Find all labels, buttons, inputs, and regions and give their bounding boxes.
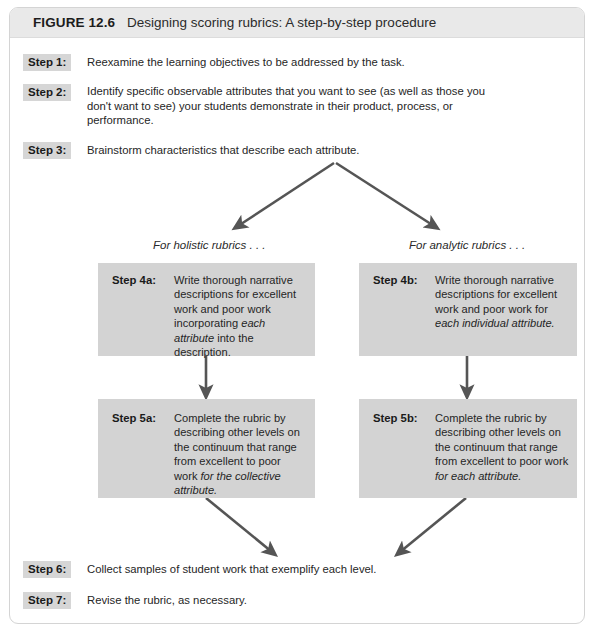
step-1-label: Step 1: (23, 54, 71, 71)
step-4a-label: Step 4a: (112, 274, 156, 286)
step-6-label: Step 6: (23, 561, 71, 578)
step-4b-label: Step 4b: (373, 274, 418, 286)
figure-title: Designing scoring rubrics: A step-by-ste… (127, 15, 436, 30)
step-4b-text-before: Write thorough narrative descriptions fo… (435, 274, 557, 315)
arrow-5b-to-step6 (400, 498, 466, 552)
box-step-5a: Step 5a: Complete the rubric by describi… (98, 399, 315, 498)
step-1-text: Reexamine the learning objectives to be … (87, 55, 557, 70)
step-5b-text-italic: for each attribute. (435, 470, 521, 482)
box-step-4b: Step 4b: Write thorough narrative descri… (359, 263, 577, 356)
step-5a-text: Complete the rubric by describing other … (174, 411, 306, 497)
box-step-4a: Step 4a: Write thorough narrative descri… (98, 263, 315, 356)
arrow-branch-left (238, 163, 334, 226)
step-5b-label: Step 5b: (373, 412, 418, 424)
step-7-text: Revise the rubric, as necessary. (87, 593, 487, 608)
box-step-5b: Step 5b: Complete the rubric by describi… (359, 399, 577, 498)
step-3-text: Brainstorm characteristics that describe… (87, 143, 537, 158)
step-2-label: Step 2: (23, 84, 71, 101)
step-5a-label: Step 5a: (112, 412, 156, 424)
step-4b-text: Write thorough narrative descriptions fo… (435, 273, 569, 331)
figure-number: FIGURE 12.6 (33, 15, 115, 30)
branch-label-holistic: For holistic rubrics . . . (153, 239, 265, 251)
step-4a-text-before: Write thorough narrative descriptions fo… (174, 274, 296, 329)
step-5b-text-before: Complete the rubric by describing other … (435, 412, 568, 467)
step-5b-text: Complete the rubric by describing other … (435, 411, 569, 483)
step-7-label: Step 7: (23, 592, 71, 609)
arrow-branch-right (336, 163, 434, 226)
arrow-5a-to-step6 (206, 498, 272, 552)
figure-card: FIGURE 12.6 Designing scoring rubrics: A… (9, 7, 585, 624)
step-4a-text: Write thorough narrative descriptions fo… (174, 273, 304, 359)
step-2-text: Identify specific observable attributes … (87, 84, 507, 128)
step-3-label: Step 3: (23, 142, 71, 159)
branch-label-analytic: For analytic rubrics . . . (409, 239, 525, 251)
step-4b-text-italic: each individual attribute. (435, 317, 555, 329)
step-6-text: Collect samples of student work that exe… (87, 562, 547, 577)
